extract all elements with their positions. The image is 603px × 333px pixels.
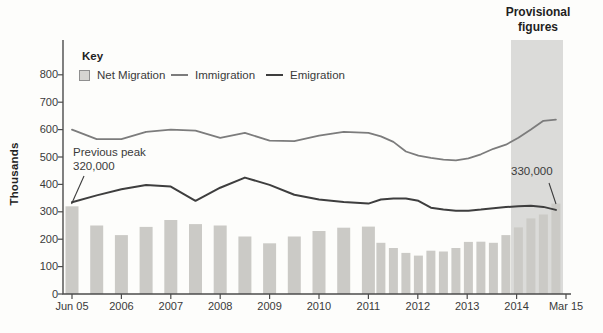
net-migration-bar bbox=[337, 228, 350, 294]
net-migration-bar bbox=[238, 237, 251, 295]
net-migration-bar bbox=[66, 206, 79, 294]
net-migration-bar bbox=[439, 252, 448, 295]
net-migration-bar bbox=[501, 235, 510, 294]
net-migration-bar bbox=[526, 218, 535, 294]
legend-item-emigration: Emigration bbox=[266, 69, 345, 81]
net-migration-bar bbox=[263, 243, 276, 294]
previous-peak-annotation: Previous peak 320,000 bbox=[73, 146, 146, 173]
net-migration-bar bbox=[414, 256, 423, 294]
provisional-figures-line2: figures bbox=[492, 20, 584, 35]
x-tick-label: 2013 bbox=[441, 300, 493, 312]
y-tick-label: 800 bbox=[22, 68, 58, 80]
net-migration-bar bbox=[389, 248, 398, 294]
net-migration-bar bbox=[362, 227, 375, 294]
y-tick-label: 400 bbox=[22, 178, 58, 190]
y-tick-label: 600 bbox=[22, 123, 58, 135]
net-migration-bar bbox=[514, 227, 523, 294]
x-tick-label: 2012 bbox=[392, 300, 444, 312]
net-migration-bar bbox=[288, 237, 301, 295]
net-migration-bar bbox=[539, 215, 548, 295]
legend-item-immigration: Immigration bbox=[171, 69, 255, 81]
provisional-figures-note: Provisional figures bbox=[492, 5, 584, 34]
x-tick-label: 2011 bbox=[342, 300, 394, 312]
net-migration-bar bbox=[476, 242, 485, 294]
y-tick-label: 500 bbox=[22, 151, 58, 163]
net-migration-bar bbox=[401, 253, 410, 294]
net-migration-swatch-icon bbox=[79, 70, 90, 81]
net-migration-bar bbox=[451, 248, 460, 294]
x-tick-label: 2009 bbox=[244, 300, 296, 312]
y-tick-label: 0 bbox=[22, 288, 58, 300]
migration-chart: Thousands 0100200300400500600700800 Jun … bbox=[0, 0, 603, 333]
net-migration-bar bbox=[140, 227, 153, 294]
x-tick-label: 2006 bbox=[95, 300, 147, 312]
legend-label-net-migration: Net Migration bbox=[97, 69, 165, 81]
y-tick-label: 100 bbox=[22, 260, 58, 272]
legend-label-emigration: Emigration bbox=[290, 69, 345, 81]
net-migration-bar bbox=[551, 204, 560, 294]
x-tick-label: Mar 15 bbox=[540, 300, 592, 312]
legend-label-immigration: Immigration bbox=[195, 69, 255, 81]
x-tick-label: Jun 05 bbox=[46, 300, 98, 312]
previous-peak-text: Previous peak bbox=[73, 146, 146, 160]
final-value-annotation: 330,000 bbox=[511, 165, 553, 177]
previous-peak-value: 320,000 bbox=[73, 160, 146, 174]
legend-title: Key bbox=[82, 50, 103, 62]
net-migration-bar bbox=[426, 251, 435, 294]
y-axis-title: Thousands bbox=[8, 124, 20, 224]
net-migration-bar bbox=[90, 226, 103, 295]
immigration-line-swatch-icon bbox=[171, 74, 188, 76]
x-tick-label: 2010 bbox=[293, 300, 345, 312]
net-migration-bar bbox=[214, 226, 227, 295]
emigration-line bbox=[72, 178, 556, 211]
net-migration-bar bbox=[464, 242, 473, 294]
y-tick-label: 300 bbox=[22, 205, 58, 217]
provisional-figures-line1: Provisional bbox=[492, 5, 584, 20]
net-migration-bar bbox=[164, 220, 177, 294]
net-migration-bar bbox=[115, 235, 128, 294]
net-migration-bar bbox=[313, 231, 326, 294]
y-tick-label: 200 bbox=[22, 233, 58, 245]
y-tick-label: 700 bbox=[22, 96, 58, 108]
net-migration-bar bbox=[189, 224, 202, 294]
legend-item-net-migration: Net Migration bbox=[79, 69, 165, 81]
net-migration-bar bbox=[489, 243, 498, 294]
x-tick-label: 2007 bbox=[145, 300, 197, 312]
x-tick-label: 2008 bbox=[194, 300, 246, 312]
x-tick-label: 2014 bbox=[491, 300, 543, 312]
emigration-line-swatch-icon bbox=[266, 74, 283, 76]
net-migration-bar bbox=[376, 243, 385, 294]
